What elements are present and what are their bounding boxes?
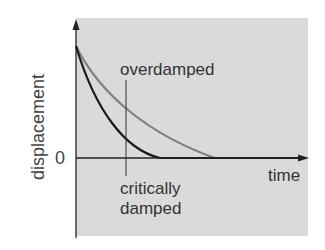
critically-damped-label-line2: damped (120, 200, 181, 217)
critically-damped-label-line1: critically (120, 180, 180, 197)
plot-background (76, 18, 308, 236)
x-axis-label: time (268, 167, 300, 184)
y-zero-tick-label: 0 (55, 149, 65, 167)
overdamped-label: overdamped (120, 61, 215, 78)
y-axis-label: displacement (29, 74, 47, 180)
